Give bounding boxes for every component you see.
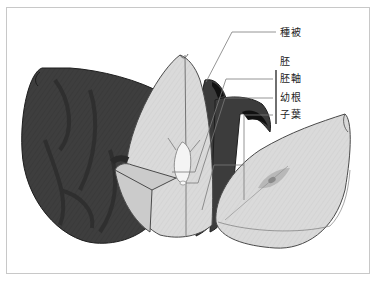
label-embryo: 胚 [280, 56, 291, 68]
label-cotyledon: 子葉 [280, 109, 302, 121]
label-seed-coat: 種被 [280, 27, 302, 39]
leader-seed-coat [206, 32, 276, 82]
label-hypocotyl: 胚軸 [280, 73, 302, 85]
seed-illustration [0, 0, 376, 284]
label-radicle: 幼根 [280, 92, 302, 104]
